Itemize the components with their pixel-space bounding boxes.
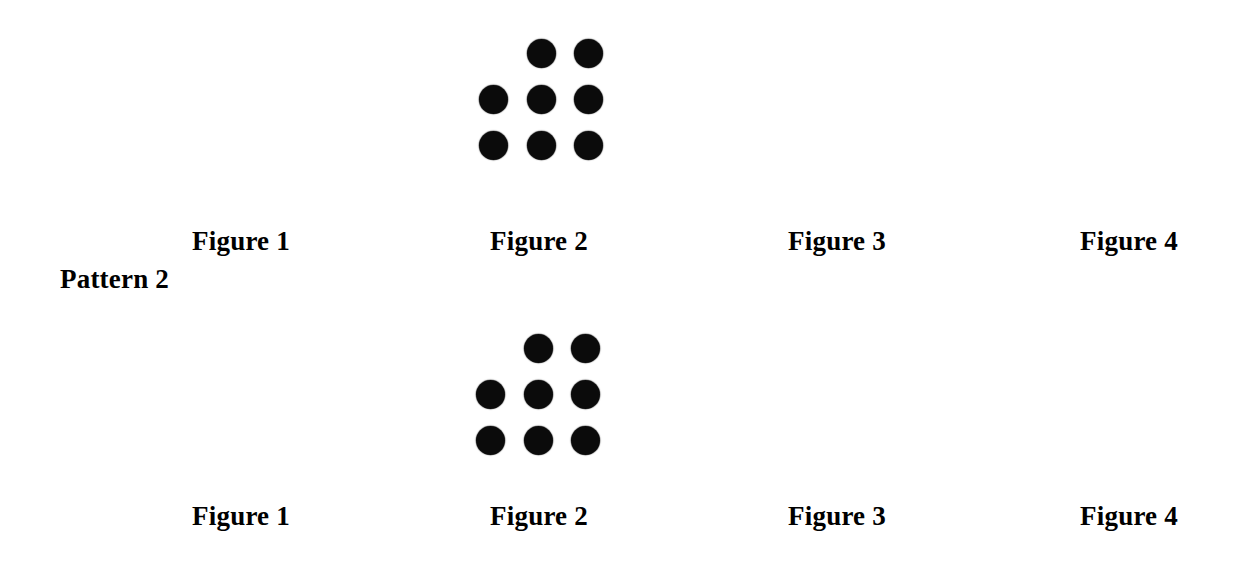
figure-4-label-row1: Figure 4 [1080,228,1178,255]
dot [574,39,603,68]
dot [524,334,553,363]
figure-4-dot-area-row2 [1066,325,1196,475]
dot [479,85,508,114]
figure-3-dot-area-row1 [775,30,905,180]
dot [476,380,505,409]
dot [574,131,603,160]
dot [527,85,556,114]
figure-2-label-row2: Figure 2 [490,503,588,530]
figure-4-label-row2: Figure 4 [1080,503,1178,530]
dot [571,380,600,409]
dot [476,426,505,455]
figure-1-label-row1: Figure 1 [192,228,290,255]
dot [527,131,556,160]
figure-1-dot-area-row1 [176,30,306,180]
figure-3-dot-area-row2 [775,325,905,475]
pattern-2-label: Pattern 2 [60,266,169,293]
dot [527,39,556,68]
figure-1-label-row2: Figure 1 [192,503,290,530]
dot [524,426,553,455]
figure-3-label-row1: Figure 3 [788,228,886,255]
dot [571,426,600,455]
dot [524,380,553,409]
figure-3-label-row2: Figure 3 [788,503,886,530]
figure-2-label-row1: Figure 2 [490,228,588,255]
dot [479,131,508,160]
dot [571,334,600,363]
dot [574,85,603,114]
figure-4-dot-area-row1 [1066,30,1196,180]
worksheet-page: Figure 1 Figure 2 Figure 3 Figure 4 Patt… [0,0,1251,568]
figure-1-dot-area-row2 [176,325,306,475]
